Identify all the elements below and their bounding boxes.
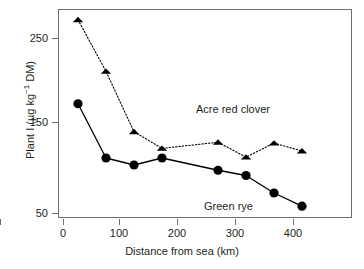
x-tick-mark-spacer <box>0 219 1 225</box>
series-markers-acre-red-clover <box>73 17 307 160</box>
plot-area: Acre red clover Green rye <box>58 9 352 218</box>
y-axis-title-superscript: −1 <box>22 85 31 94</box>
series-markers-green-rye <box>73 99 306 211</box>
x-tick-mark-100 <box>119 219 120 225</box>
series-annotation-green-rye: Green rye <box>204 200 253 212</box>
x-tick-label-200: 200 <box>157 228 197 239</box>
series-line-green-rye <box>78 104 302 206</box>
x-tick-mark-200 <box>177 219 178 225</box>
x-tick-label-0: 0 <box>43 228 83 239</box>
series-annotation-acre-red-clover: Acre red clover <box>196 103 270 115</box>
x-tick-mark-300 <box>235 219 236 225</box>
y-axis-title-suffix: DM) <box>24 61 36 85</box>
x-tick-mark-400 <box>293 219 294 225</box>
y-axis-title: Plant I (µg kg−1 DM) <box>24 20 36 200</box>
x-axis-title: Distance from sea (km) <box>0 245 364 257</box>
x-tick-label-400: 400 <box>273 228 313 239</box>
y-axis-title-prefix: Plant I (µg kg <box>24 94 36 159</box>
x-tick-label-300: 300 <box>215 228 255 239</box>
series-line-acre-red-clover <box>78 20 302 157</box>
x-tick-label-100: 100 <box>99 228 139 239</box>
y-tick-label-50: 50 <box>12 208 48 219</box>
x-tick-mark-0 <box>63 219 64 225</box>
chart-figure: 250 150 50 0 100 200 300 400 Distance fr… <box>0 0 364 269</box>
